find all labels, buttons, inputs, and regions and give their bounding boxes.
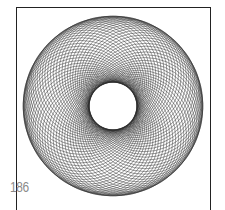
- overlapping-circles: [23, 16, 203, 196]
- page-number: 186: [10, 179, 29, 195]
- spirograph-figure: [0, 0, 225, 210]
